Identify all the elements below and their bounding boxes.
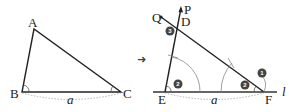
vertex-label-e: E [158, 92, 166, 107]
line-label-l: l [282, 84, 286, 99]
vertex-label-f: F [265, 92, 272, 107]
vertex-label-c: C [123, 86, 132, 101]
construction-def [153, 6, 277, 100]
ray-label-q: Q [152, 10, 162, 25]
ray-p-arrowhead-icon [179, 6, 184, 13]
vertex-label-a: A [28, 15, 38, 30]
step1-arc [262, 76, 266, 92]
transform-arrow-icon: ➜ [137, 53, 146, 66]
angle-c-mark [111, 87, 113, 93]
step-badge-3: 3 [166, 27, 175, 36]
triangle-abc [22, 29, 121, 100]
step-badge-1: 1 [258, 69, 267, 78]
side-label-a-right: a [211, 92, 218, 107]
step-badge-2-e: 2 [174, 80, 183, 89]
ray-ep [165, 8, 181, 92]
vertex-label-b: B [10, 86, 19, 101]
side-label-a-left: a [67, 92, 74, 107]
geometry-diagram: A B C a ➜ 1 2 2 3 [0, 0, 289, 112]
step-badge-2-f: 2 [241, 81, 250, 90]
vertex-label-d: D [181, 14, 190, 29]
angle-b-mark [24, 85, 30, 92]
triangle-abc-shape [22, 29, 121, 92]
